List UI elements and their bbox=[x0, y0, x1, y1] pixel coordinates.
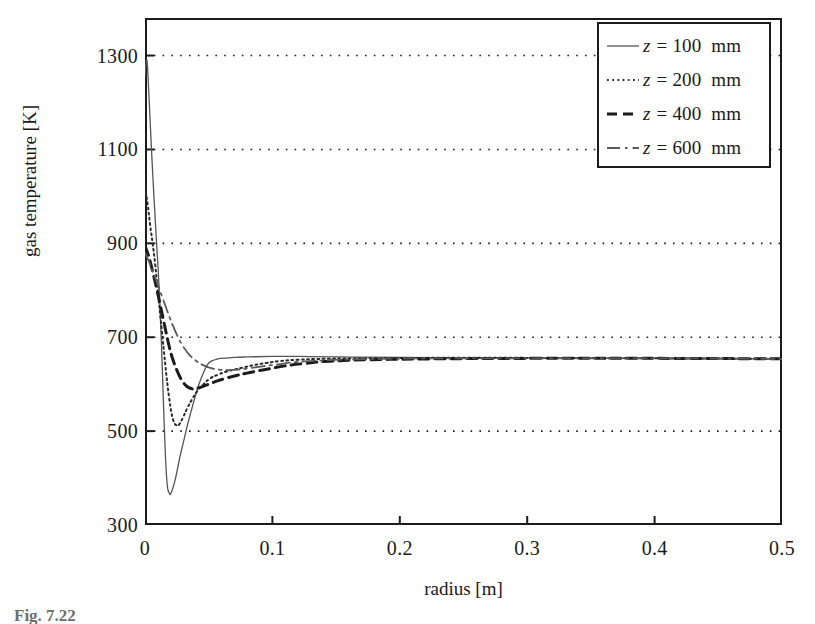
legend-item-3[interactable]: z = 400 mm bbox=[599, 97, 769, 131]
legend-label: z = 200 mm bbox=[643, 69, 741, 91]
y-tick-label: 1100 bbox=[76, 139, 138, 159]
legend-line-sample bbox=[606, 141, 640, 155]
x-axis-title: radius [m] bbox=[145, 578, 782, 600]
y-tick-label: 500 bbox=[76, 421, 138, 441]
figure-caption: Fig. 7.22 bbox=[14, 606, 76, 624]
x-tick-label: 0.5 bbox=[747, 538, 815, 558]
legend-label: z = 100 mm bbox=[643, 35, 741, 57]
x-tick-label: 0 bbox=[110, 538, 180, 558]
y-tick-label: 700 bbox=[76, 327, 138, 347]
y-axis-tick-labels: 30050070090011001300 bbox=[58, 0, 138, 560]
legend-item-4[interactable]: z = 600 mm bbox=[599, 131, 769, 165]
series-line-2 bbox=[145, 187, 782, 426]
legend-line-sample bbox=[606, 73, 640, 87]
x-tick-label: 0.1 bbox=[237, 538, 307, 558]
y-tick-label: 1300 bbox=[76, 46, 138, 66]
legend-label: z = 600 mm bbox=[643, 137, 741, 159]
series-line-4 bbox=[145, 253, 782, 370]
legend-item-2[interactable]: z = 200 mm bbox=[599, 63, 769, 97]
legend-line-sample bbox=[606, 39, 640, 53]
figure-container: 30050070090011001300 gas temperature [K]… bbox=[0, 0, 815, 624]
x-tick-label: 0.2 bbox=[365, 538, 435, 558]
y-tick-label: 900 bbox=[76, 233, 138, 253]
x-axis-tick-labels: 00.10.20.30.40.5 bbox=[145, 538, 815, 568]
y-tick-label: 300 bbox=[76, 515, 138, 535]
legend: z = 100 mmz = 200 mmz = 400 mmz = 600 mm bbox=[597, 22, 771, 168]
y-axis-title: gas temperature [K] bbox=[19, 66, 41, 296]
legend-label: z = 400 mm bbox=[643, 103, 741, 125]
x-tick-label: 0.3 bbox=[492, 538, 562, 558]
x-tick-label: 0.4 bbox=[620, 538, 690, 558]
legend-item-1[interactable]: z = 100 mm bbox=[599, 29, 769, 63]
legend-line-sample bbox=[606, 107, 640, 121]
